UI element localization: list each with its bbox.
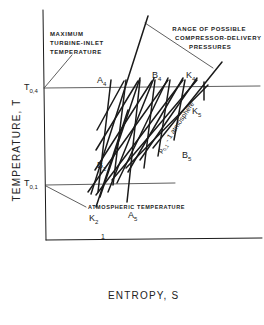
atmos-leader: [46, 186, 86, 207]
point-b5: B5: [182, 150, 191, 162]
max-temp-annotation: MAXIMUM TURBINE-INLET TEMPERATURE: [50, 30, 104, 57]
point-k2: K2: [89, 213, 98, 225]
t04-line: [44, 86, 260, 88]
point-1: 1: [101, 233, 105, 240]
t01-label: T0,1: [24, 178, 38, 190]
point-k4: K4: [186, 70, 195, 82]
max-temp-leader: [45, 55, 72, 87]
point-b4: B4: [152, 70, 161, 82]
x-axis-label: ENTROPY, S: [108, 290, 179, 301]
t04-label: T0,4: [24, 82, 38, 94]
y-axis: [43, 10, 46, 240]
y-axis-label: TEMPERATURE, T: [11, 106, 22, 202]
x-axis: [46, 238, 262, 240]
range-annotation: RANGE OF POSSIBLE COMPRESSOR-DELIVERY PR…: [163, 25, 262, 52]
point-a5: A5: [128, 210, 137, 222]
point-a4: A4: [97, 75, 106, 87]
point-k5: K5: [192, 106, 201, 118]
point-b2: B2: [97, 160, 106, 172]
